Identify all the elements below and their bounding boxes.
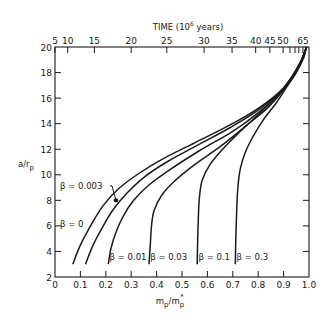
top-axis-title: TIME (106 years): [152, 20, 224, 32]
x-tick-label: 1.0: [302, 280, 317, 290]
y-tick-label: 8: [46, 196, 52, 206]
x-axis-title: mp/mp*: [156, 293, 185, 309]
curve-label: β = 0: [60, 219, 83, 229]
y-tick-label: 12: [41, 145, 52, 155]
arrow-dot: [114, 198, 118, 202]
top-axis-title-text: TIME (106 years): [152, 20, 224, 32]
y-tick-label: 2: [46, 273, 52, 283]
curve-label: β = 0.01: [110, 252, 147, 262]
x-tick-label: 0.9: [276, 280, 291, 290]
curve-label: β = 0.003: [60, 181, 102, 191]
y-tick-label: 18: [41, 68, 53, 78]
curve: [149, 47, 307, 264]
top-axis-ticks: 510152025303540455065: [52, 36, 308, 53]
x-tick-label: 0.4: [149, 280, 164, 290]
top-tick-label: 30: [198, 36, 210, 46]
y-tick-label: 4: [46, 247, 52, 257]
top-tick-label: 35: [226, 36, 237, 46]
curve-label: β = 0.03: [150, 252, 187, 262]
curve: [197, 47, 306, 264]
x-tick-label: 0.8: [251, 280, 266, 290]
x-tick-label: 0: [52, 280, 58, 290]
x-tick-label: 0.2: [99, 280, 113, 290]
y-axis-title: a/rp: [18, 159, 35, 172]
curves: [73, 47, 307, 264]
x-axis-ticks: 00.10.20.30.40.50.60.70.80.91.0: [52, 271, 316, 290]
top-tick-label: 50: [277, 36, 289, 46]
chart: TIME (106 years) 510152025303540455065 0…: [0, 0, 328, 326]
curve-label: β = 0.1: [199, 252, 230, 262]
x-tick-label: 0.1: [73, 280, 87, 290]
x-tick-label: 0.6: [200, 280, 215, 290]
y-tick-label: 20: [41, 43, 53, 53]
top-tick-label: 45: [264, 36, 275, 46]
curve: [86, 47, 307, 264]
y-tick-label: 10: [41, 170, 53, 180]
top-tick-label: 25: [161, 36, 172, 46]
top-tick-label: 5: [52, 36, 58, 46]
top-tick-label: 10: [62, 36, 74, 46]
y-axis-ticks: 2468101214161820: [41, 43, 309, 283]
x-tick-label: 0.3: [124, 280, 138, 290]
x-tick-label: 0.5: [175, 280, 189, 290]
curve-label: β = 0.3: [237, 252, 268, 262]
y-tick-label: 14: [41, 119, 53, 129]
top-tick-label: 65: [297, 36, 308, 46]
curve: [73, 47, 307, 264]
top-tick-label: 15: [89, 36, 100, 46]
x-tick-label: 0.7: [226, 280, 240, 290]
curve: [235, 47, 306, 264]
y-tick-label: 16: [41, 94, 53, 104]
y-tick-label: 6: [46, 221, 52, 231]
top-tick-label: 20: [125, 36, 137, 46]
top-tick-label: 40: [250, 36, 262, 46]
